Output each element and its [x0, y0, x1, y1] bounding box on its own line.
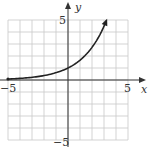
y-axis-label: y: [74, 1, 82, 14]
y-tick-label-max: 5: [59, 14, 66, 27]
x-tick-label-min: −5: [0, 82, 16, 95]
y-axis-arrow-icon: [65, 2, 71, 9]
x-tick-label-max: 5: [124, 82, 131, 95]
y-tick-label-min: −5: [53, 136, 69, 149]
exponential-graph: y x 5 −5 −5 5: [0, 0, 149, 153]
x-axis-label: x: [141, 83, 148, 96]
curve-start-dot: [6, 77, 9, 80]
